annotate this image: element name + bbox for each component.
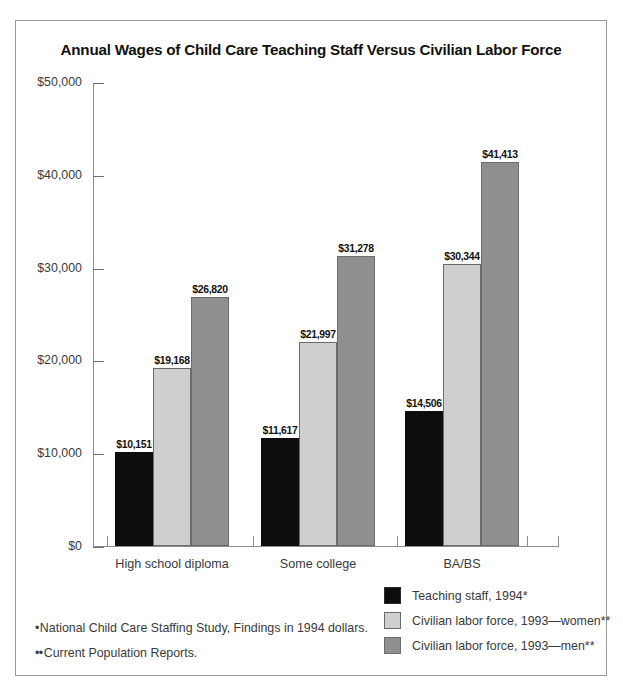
y-axis-tick-label: $30,000 <box>37 261 82 275</box>
legend-swatch <box>384 587 401 604</box>
footnote: ••Current Population Reports. <box>35 646 368 671</box>
category-tick <box>107 536 108 547</box>
legend-label: Civilian labor force, 1993—men** <box>412 639 595 653</box>
legend-item: Civilian labor force, 1993—men** <box>384 633 610 658</box>
category-label: High school diploma <box>115 557 228 571</box>
legend-label: Civilian labor force, 1993—women** <box>412 614 610 628</box>
legend-item: Civilian labor force, 1993—women** <box>384 608 610 633</box>
category-tick <box>253 536 254 547</box>
x-axis-line <box>93 546 559 547</box>
bar: $14,506 <box>405 411 443 546</box>
y-axis-tick-label: $40,000 <box>37 168 82 182</box>
bar: $26,820 <box>191 297 229 546</box>
footnote-marker: •• <box>35 646 43 660</box>
y-axis-tick: $30,000 <box>93 269 104 270</box>
category-tick <box>527 536 528 547</box>
bar-value-label: $11,617 <box>263 425 298 436</box>
bar: $31,278 <box>337 256 375 546</box>
bar-value-label: $19,168 <box>154 355 189 366</box>
y-axis-tick: $50,000 <box>93 83 104 84</box>
y-axis-tick: $20,000 <box>93 361 104 362</box>
bar: $30,344 <box>443 264 481 546</box>
bar-value-label: $26,820 <box>192 284 227 295</box>
legend: Teaching staff, 1994*Civilian labor forc… <box>384 583 610 658</box>
category-tick <box>397 536 398 547</box>
legend-swatch <box>384 637 401 654</box>
footnote: •National Child Care Staffing Study, Fin… <box>35 621 368 646</box>
y-axis-tick-label: $20,000 <box>37 353 82 367</box>
y-axis-tick: $10,000 <box>93 454 104 455</box>
legend-item: Teaching staff, 1994* <box>384 583 610 608</box>
bar-value-label: $30,344 <box>444 251 479 262</box>
category-label: BA/BS <box>443 557 480 571</box>
footnote-text: Current Population Reports. <box>44 646 198 660</box>
footnote-marker: • <box>35 621 39 635</box>
x-axis-end-tick <box>558 536 559 547</box>
chart-title: Annual Wages of Child Care Teaching Staf… <box>16 41 606 58</box>
bar-value-label: $21,997 <box>300 329 335 340</box>
legend-label: Teaching staff, 1994* <box>412 589 528 603</box>
bar: $21,997 <box>299 342 337 546</box>
bar-value-label: $14,506 <box>406 398 441 409</box>
bar: $11,617 <box>261 438 299 546</box>
footnote-text: National Child Care Staffing Study, Find… <box>40 621 368 635</box>
bar: $10,151 <box>115 452 153 546</box>
bar-value-label: $41,413 <box>482 149 517 160</box>
category-label: Some college <box>280 557 356 571</box>
y-axis-tick-label: $10,000 <box>37 446 82 460</box>
bar-value-label: $31,278 <box>338 243 373 254</box>
plot-area: $0$10,000$20,000$30,000$40,000$50,000 $1… <box>93 83 559 547</box>
footnotes: •National Child Care Staffing Study, Fin… <box>35 621 368 671</box>
bar: $19,168 <box>153 368 191 546</box>
bar: $41,413 <box>481 162 519 546</box>
figure-frame: Annual Wages of Child Care Teaching Staf… <box>15 20 607 676</box>
legend-swatch <box>384 612 401 629</box>
y-axis-tick-label: $50,000 <box>37 75 82 89</box>
y-axis-tick: $40,000 <box>93 176 104 177</box>
y-axis-tick: $0 <box>93 547 104 548</box>
y-axis-line <box>93 83 94 547</box>
y-axis-tick-label: $0 <box>68 539 82 553</box>
bar-value-label: $10,151 <box>116 439 151 450</box>
